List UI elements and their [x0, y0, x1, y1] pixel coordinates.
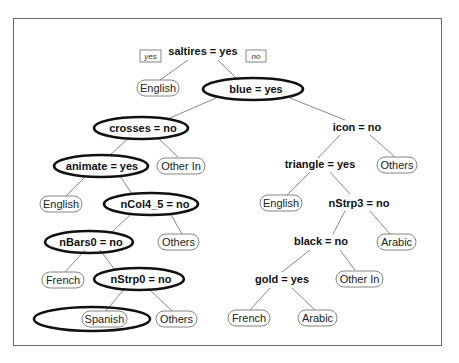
- node-nstrp0: nStrp0 = no: [94, 268, 184, 290]
- node-triangle: triangle = yes: [285, 158, 356, 170]
- svg-text:English: English: [43, 198, 79, 210]
- node-saltires: saltires = yes: [168, 45, 237, 57]
- legend-yes: yes: [140, 50, 161, 62]
- svg-text:Spanish: Spanish: [85, 313, 125, 325]
- svg-text:English: English: [263, 197, 299, 209]
- node-blue: blue = yes: [203, 78, 303, 100]
- leaf-others-3: Others: [156, 311, 197, 327]
- svg-text:animate = yes: animate = yes: [66, 160, 138, 172]
- decision-tree: yes no saltires = yes English blue = yes…: [0, 0, 459, 363]
- leaf-arabic-2: Arabic: [298, 310, 337, 326]
- node-black: black = no: [294, 235, 348, 247]
- svg-text:Others: Others: [160, 313, 194, 325]
- leaf-english-3: English: [260, 195, 302, 211]
- svg-text:Arabic: Arabic: [302, 312, 334, 324]
- svg-text:French: French: [232, 312, 266, 324]
- node-ncol4-5: nCol4_5 = no: [104, 193, 198, 215]
- node-nbars0: nBars0 = no: [45, 231, 133, 253]
- svg-text:Others: Others: [162, 236, 196, 248]
- svg-text:nStrp0 = no: nStrp0 = no: [111, 273, 172, 285]
- node-nstrp3: nStrp3 = no: [329, 197, 390, 209]
- svg-text:Other In: Other In: [161, 160, 201, 172]
- svg-text:English: English: [140, 82, 176, 94]
- leaf-other-in-1: Other In: [157, 158, 205, 174]
- leaf-others-2: Others: [158, 234, 199, 250]
- svg-text:yes: yes: [143, 52, 156, 61]
- leaf-spanish: Spanish: [34, 307, 150, 331]
- svg-text:French: French: [46, 274, 80, 286]
- svg-text:no: no: [252, 52, 261, 61]
- node-gold: gold = yes: [255, 273, 309, 285]
- leaf-english-2: English: [40, 196, 82, 212]
- node-icon: icon = no: [333, 121, 382, 133]
- leaf-others-1: Others: [377, 157, 417, 173]
- leaf-english-1: English: [137, 80, 179, 96]
- svg-text:Others: Others: [380, 159, 414, 171]
- svg-text:Other In: Other In: [340, 273, 380, 285]
- leaf-french-2: French: [228, 310, 270, 326]
- svg-text:Arabic: Arabic: [381, 236, 413, 248]
- svg-text:blue = yes: blue = yes: [229, 83, 283, 95]
- leaf-other-in-2: Other In: [336, 271, 383, 287]
- legend-no: no: [246, 50, 266, 62]
- svg-text:crosses = no: crosses = no: [109, 122, 177, 134]
- svg-text:nBars0 = no: nBars0 = no: [59, 236, 123, 248]
- node-animate: animate = yes: [54, 155, 148, 177]
- leaf-french-1: French: [42, 272, 84, 288]
- svg-text:nCol4_5 = no: nCol4_5 = no: [121, 198, 190, 210]
- leaf-arabic-1: Arabic: [377, 234, 416, 250]
- node-crosses: crosses = no: [94, 117, 188, 139]
